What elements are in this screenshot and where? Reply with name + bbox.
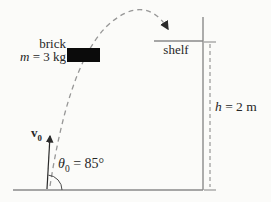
initial-velocity-label: v0	[31, 126, 42, 140]
height-value: = 2 m	[222, 99, 257, 114]
shelf-label: shelf	[153, 43, 199, 57]
brick-rect	[67, 48, 100, 62]
height-label: h = 2 m	[215, 100, 257, 114]
brick-label-block: brick m = 3 kg	[2, 37, 66, 63]
height-symbol: h	[215, 99, 222, 114]
theta-symbol: θ	[58, 156, 65, 171]
projectile-diagram: brick m = 3 kg shelf h = 2 m θ0 = 85° v0	[0, 0, 271, 202]
velocity-vector	[47, 136, 50, 189]
angle-value: = 85°	[70, 156, 105, 171]
velocity-subscript: 0	[38, 133, 42, 143]
launch-angle-label: θ0 = 85°	[58, 157, 104, 172]
mass-value: = 3 kg	[29, 49, 66, 64]
brick-mass-label: m = 3 kg	[2, 50, 66, 63]
mass-symbol: m	[20, 49, 29, 64]
